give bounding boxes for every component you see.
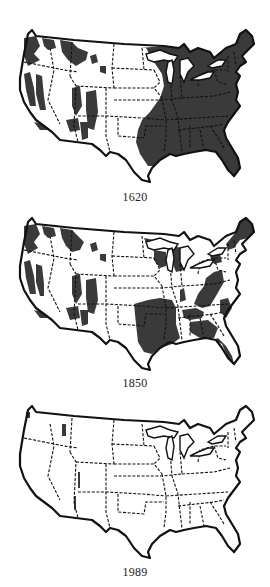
- map-year-label: 1850: [0, 376, 270, 391]
- us-forest-map-1989: [14, 402, 258, 562]
- map-year-label: 1620: [0, 190, 270, 205]
- us-forest-map-1620: [14, 26, 258, 186]
- map-year-label: 1989: [0, 565, 270, 580]
- us-forest-map-1850: [14, 214, 258, 374]
